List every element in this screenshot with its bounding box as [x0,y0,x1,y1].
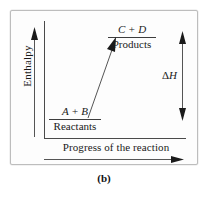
enthalpy-axis-line [44,21,45,139]
progress-axis-label: Progress of the reaction [41,141,191,153]
figure-caption: (b) [0,172,208,184]
reactants-name-label: Reactants [49,120,101,132]
figure-panel: Enthalpy Progress of the reaction A + B … [10,10,198,165]
double-headed-vertical-arrow-icon [177,31,188,121]
enthalpy-axis-label: Enthalpy [21,31,33,101]
enthalpy-diagram-figure: Enthalpy Progress of the reaction A + B … [0,0,208,197]
delta-symbol: Δ [162,69,169,81]
right-arrow-icon [44,155,184,164]
progress-axis-line [44,138,186,139]
products-species-label: C + D [108,23,156,35]
diagonal-up-arrow-icon [86,35,122,119]
enthalpy-symbol: H [169,69,177,81]
delta-h-label: ΔH [153,69,177,81]
